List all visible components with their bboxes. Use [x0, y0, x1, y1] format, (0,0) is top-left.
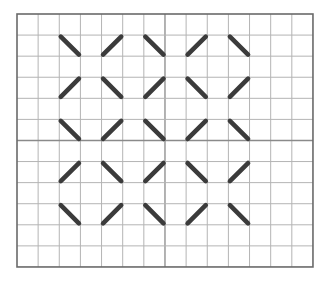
- slash-stroke: [188, 205, 206, 223]
- backslash-stroke: [188, 79, 206, 97]
- slash-stroke: [145, 79, 163, 97]
- slash-stroke: [145, 163, 163, 181]
- stitch-grid-figure: [0, 0, 323, 283]
- slash-stroke: [188, 121, 206, 139]
- backslash-stroke: [188, 163, 206, 181]
- backslash-stroke: [103, 79, 121, 97]
- backslash-stroke: [230, 205, 248, 223]
- backslash-stroke: [61, 37, 79, 55]
- backslash-stroke: [230, 121, 248, 139]
- backslash-stroke: [103, 163, 121, 181]
- backslash-stroke: [230, 37, 248, 55]
- diagonal-strokes: [61, 37, 248, 224]
- backslash-stroke: [61, 121, 79, 139]
- backslash-stroke: [145, 37, 163, 55]
- backslash-stroke: [145, 121, 163, 139]
- slash-stroke: [230, 79, 248, 97]
- slash-stroke: [61, 163, 79, 181]
- slash-stroke: [230, 163, 248, 181]
- backslash-stroke: [145, 205, 163, 223]
- backslash-stroke: [61, 205, 79, 223]
- slash-stroke: [103, 37, 121, 55]
- slash-stroke: [61, 79, 79, 97]
- slash-stroke: [103, 205, 121, 223]
- slash-stroke: [103, 121, 121, 139]
- slash-stroke: [188, 37, 206, 55]
